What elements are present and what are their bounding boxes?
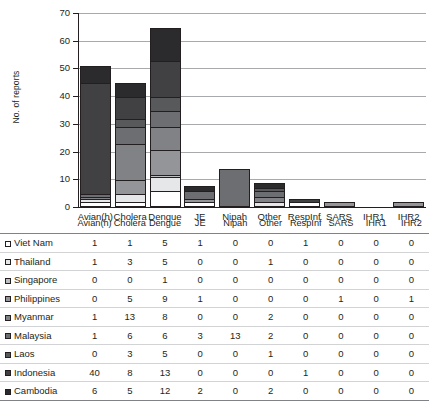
y-tick-label-70: 70 [48,8,70,18]
table-cell: 0 [359,345,394,364]
table-col-header-cholera: Cholera [112,216,147,234]
table-row: Singapore0010000000 [0,271,429,290]
table-cell: 0 [77,289,112,308]
bar-nipah [219,169,250,207]
bar-segment-philippines [325,203,354,206]
table-header-row: Avian(h)CholeraDengueJENipahOtherRespInf… [0,216,429,234]
legend-swatch-icon [5,241,11,247]
table-cell: 1 [77,308,112,327]
bar-segment-thailand [116,195,145,203]
table-cell: 0 [288,345,323,364]
table-cell: 1 [77,252,112,271]
legend-label: Thailand [14,257,50,267]
table-row-label-laos: Laos [0,345,77,364]
table-cell: 0 [183,363,218,382]
bar-segment-myanmar [151,128,180,150]
table-cell: 0 [218,252,253,271]
table-row-label-philippines: Philippines [0,289,77,308]
table-cell: 0 [359,326,394,345]
table-cell: 0 [288,382,323,401]
y-tick-mark-50 [73,68,79,69]
legend-swatch-icon [5,389,11,395]
table-cell: 0 [359,363,394,382]
table-row-label-indonesia: Indonesia [0,363,77,382]
y-tick-label-40: 40 [48,91,70,101]
table-cell: 0 [323,308,358,327]
table-cell: 13 [218,326,253,345]
table-cell: 0 [323,382,358,401]
table-cell: 0 [288,271,323,290]
bar-segment-malaysia [185,192,214,200]
table-row: Philippines0591000101 [0,289,429,308]
table-cell: 3 [183,326,218,345]
bar-segment-viet-nam [151,192,180,206]
table-cell: 1 [253,345,288,364]
table-cell: 0 [359,308,394,327]
bar-segment-viet-nam [185,203,214,206]
table-row-label-singapore: Singapore [0,271,77,290]
table-cell: 0 [288,289,323,308]
table-cell: 13 [147,363,182,382]
table-col-header-je: JE [183,216,218,234]
bar-segment-viet-nam [290,203,319,206]
table-cell: 1 [183,234,218,253]
y-tick-label-20: 20 [48,147,70,157]
bar-segment-thailand [255,203,284,206]
bar-segment-indonesia [81,84,110,195]
table-col-header-other: Other [253,216,288,234]
legend-label: Indonesia [14,368,55,378]
y-tick-mark-40 [73,96,79,97]
bar-segment-philippines [116,181,145,195]
y-tick-label-0: 0 [48,202,70,212]
bar-segment-cambodia [151,29,180,62]
table-cell: 0 [394,326,429,345]
table-cell: 0 [183,345,218,364]
table-cell: 5 [147,252,182,271]
legend-data-table: Avian(h)CholeraDengueJENipahOtherRespInf… [0,216,429,396]
table-cell: 2 [253,308,288,327]
table-cell: 8 [112,363,147,382]
y-tick-label-50: 50 [48,63,70,73]
table-cell: 12 [147,382,182,401]
legend-label: Viet Nam [14,238,53,248]
data-table: Avian(h)CholeraDengueJENipahOtherRespInf… [0,216,429,401]
table-row: Laos0350010000 [0,345,429,364]
legend-swatch-icon [5,315,11,321]
y-axis-title: No. of reports [11,52,21,142]
table-cell: 1 [288,363,323,382]
legend-label: Cambodia [14,386,57,396]
table-cell: 0 [218,345,253,364]
legend-swatch-icon [5,296,11,302]
bar-segment-thailand [151,178,180,192]
table-cell: 0 [218,289,253,308]
table-cell: 0 [218,382,253,401]
table-cell: 1 [147,271,182,290]
legend-swatch-icon [5,333,11,339]
table-cell: 0 [288,308,323,327]
table-col-header-ihr1: IHR1 [359,216,394,234]
table-cell: 0 [394,271,429,290]
table-cell: 0 [77,271,112,290]
legend-label: Laos [14,349,35,359]
table-row-label-myanmar: Myanmar [0,308,77,327]
table-cell: 6 [147,326,182,345]
table-cell: 6 [112,326,147,345]
bar-sars [324,202,355,207]
table-cell: 0 [183,271,218,290]
table-row-label-cambodia: Cambodia [0,382,77,401]
table-col-header-dengue: Dengue [147,216,182,234]
y-tick-mark-10 [73,179,79,180]
table-cell: 8 [147,308,182,327]
table-cell: 1 [112,234,147,253]
table-cell: 0 [359,289,394,308]
y-tick-label-30: 30 [48,119,70,129]
bar-segment-indonesia [116,98,145,120]
table-cell: 1 [183,289,218,308]
bar-segment-viet-nam [81,203,110,206]
table-cell: 0 [218,234,253,253]
table-row-label-malaysia: Malaysia [0,326,77,345]
table-cell: 0 [394,308,429,327]
legend-label: Malaysia [14,331,52,341]
y-tick-mark-30 [73,124,79,125]
bar-segment-indonesia [151,62,180,98]
